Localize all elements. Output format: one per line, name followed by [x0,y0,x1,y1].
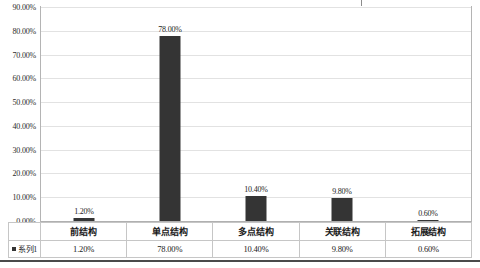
bar-value-label: 1.20% [74,207,94,216]
page-bottom-rule [0,260,480,262]
y-axis-tick-label: 50.00% [13,98,36,107]
bars-group: 1.20%78.00%10.40%9.80%0.60% [41,7,471,221]
y-axis-tick-label: 20.00% [13,169,36,178]
bar-value-label: 0.60% [418,209,438,218]
data-table-value-cell: 9.80% [300,241,386,258]
legend-series-1: 系列1 [9,241,41,258]
bar [160,36,181,221]
bar-value-label: 78.00% [158,25,181,34]
bar [246,196,267,221]
data-table-value-cell: 78.00% [127,241,213,258]
bar-value-label: 10.40% [244,185,267,194]
data-table-category-cell: 多点结构 [213,223,299,240]
bar [332,198,353,221]
data-table-category-cell: 前结构 [41,223,127,240]
bar-slot: 9.80% [299,7,385,221]
data-table-category-cell: 关联结构 [300,223,386,240]
bar-value-label: 9.80% [332,187,352,196]
bar-chart-figure: 0.00%10.00%20.00%30.00%40.00%50.00%60.00… [0,0,480,268]
data-table-value-row: 系列1 1.20% 78.00% 10.40% 9.80% 0.60% [9,241,471,258]
y-axis-tick-label: 70.00% [13,50,36,59]
y-axis-tick-label: 40.00% [13,121,36,130]
legend-marker-icon [12,247,16,251]
y-axis-tick-label: 10.00% [13,193,36,202]
y-axis-tick-label: 80.00% [13,26,36,35]
y-axis-tick-label: 90.00% [13,3,36,12]
chart-data-table: 前结构 单点结构 多点结构 关联结构 拓展结构 系列1 1.20% 78.00%… [8,222,472,258]
data-table-category-cell: 拓展结构 [386,223,471,240]
data-table-category-row: 前结构 单点结构 多点结构 关联结构 拓展结构 [9,223,471,241]
data-table-value-cell: 1.20% [41,241,127,258]
y-axis-tick-label: 60.00% [13,74,36,83]
bar-slot: 78.00% [127,7,213,221]
data-table-category-cell: 单点结构 [127,223,213,240]
bar [418,220,439,222]
bar-slot: 10.40% [213,7,299,221]
bar-slot: 0.60% [385,7,471,221]
legend-series-label: 系列1 [18,243,37,254]
y-axis-tick-label: 30.00% [13,145,36,154]
data-table-value-cell: 0.60% [386,241,471,258]
bar-slot: 1.20% [41,7,127,221]
data-table-corner-cell [9,223,41,240]
data-table-value-cell: 10.40% [213,241,299,258]
bar [74,218,95,221]
